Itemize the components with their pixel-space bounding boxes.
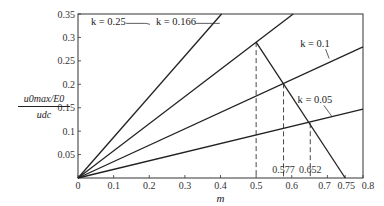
y-tick-label: 0.35 bbox=[58, 9, 76, 20]
leader-line bbox=[324, 105, 332, 116]
series-label: k = 0.1 bbox=[300, 38, 330, 49]
y-tick-label: 0.1 bbox=[63, 126, 76, 137]
series-label: k = 0.05 bbox=[298, 94, 333, 105]
series-label: k = 0.25 bbox=[91, 16, 126, 27]
series-line bbox=[78, 47, 363, 178]
plot-area: 00.10.20.30.40.50.60.70.750.80.050.10.15… bbox=[58, 9, 375, 205]
y-tick-label: 0.05 bbox=[58, 149, 76, 160]
x-tick-label: 0.7 bbox=[318, 180, 331, 191]
y-axis-label: u0max/E0 udc bbox=[18, 92, 70, 121]
y-axis-label-denominator: udc bbox=[18, 107, 70, 121]
guide-value-label: 0.577 bbox=[272, 164, 295, 175]
x-tick-label: 0.2 bbox=[143, 180, 156, 191]
leader-line bbox=[326, 49, 330, 58]
x-tick-label: 0.4 bbox=[214, 180, 227, 191]
x-tick-label: 0 bbox=[76, 180, 81, 191]
leader-line bbox=[126, 23, 150, 24]
series-line bbox=[78, 14, 222, 178]
series-line bbox=[78, 14, 293, 178]
x-tick-label: 0.3 bbox=[179, 180, 192, 191]
x-tick-label: 0.5 bbox=[250, 180, 263, 191]
y-tick-label: 0.2 bbox=[63, 79, 76, 90]
y-axis-label-numerator: u0max/E0 bbox=[18, 92, 70, 107]
x-axis-label: m bbox=[217, 192, 225, 204]
y-tick-label: 0.25 bbox=[58, 55, 76, 66]
y-tick-label: 0.3 bbox=[63, 32, 76, 43]
x-tick-label: 0.6 bbox=[286, 180, 299, 191]
series-line bbox=[256, 42, 345, 178]
series-label: k = 0.166 bbox=[156, 16, 196, 27]
guide-value-label: 0.652 bbox=[299, 164, 322, 175]
x-tick-label: 0.75 bbox=[337, 180, 355, 191]
x-tick-label: 0.8 bbox=[362, 180, 375, 191]
x-tick-label: 0.1 bbox=[107, 180, 120, 191]
